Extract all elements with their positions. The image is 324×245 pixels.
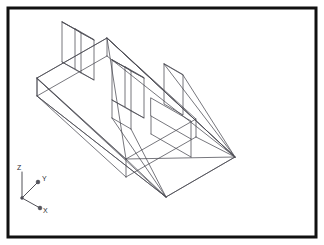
- tie-line-b: [126, 159, 166, 197]
- y-axis-arrowhead-icon: [36, 180, 40, 184]
- x-axis-line: [22, 198, 40, 208]
- y-axis-label: Y: [42, 175, 47, 182]
- slab-right-top: [151, 98, 191, 139]
- x-axis-arrowhead-icon: [38, 206, 42, 210]
- x-axis-label: X: [43, 207, 48, 214]
- slab-right-front-bottom: [151, 134, 191, 157]
- wireframe-geometry-group: [37, 22, 235, 197]
- rib-front-lower-edge: [37, 96, 126, 177]
- wedge-right-edge-b: [166, 157, 235, 197]
- wedge-left-end-vertical: [37, 56, 107, 96]
- tie-line-g: [196, 137, 235, 157]
- wedge-upper-slope-right: [107, 56, 235, 157]
- plate-mid-connector-low: [131, 111, 144, 118]
- plate-mid-b-quad: [125, 67, 144, 118]
- rib-bottom-edge: [126, 137, 196, 177]
- wedge-upper-slope-left: [37, 96, 166, 197]
- tie-line-d: [112, 118, 166, 197]
- plate-left-connector-bot: [62, 62, 75, 69]
- tie-line-c: [126, 157, 235, 159]
- cad-drawing-viewport[interactable]: ZYX: [0, 0, 324, 245]
- ucs-axis-tripod[interactable]: ZYX: [17, 164, 48, 214]
- y-axis-line: [22, 182, 38, 198]
- rib-inner-edge-top: [107, 38, 126, 159]
- plate-mid-connector-bot: [112, 100, 125, 107]
- ucs-origin-marker: [21, 197, 24, 200]
- plate-mid-cross-b: [125, 67, 131, 71]
- drawing-canvas: ZYX: [0, 0, 324, 245]
- plate-mid-drop-base: [112, 118, 131, 129]
- plate-left-outer-quad: [62, 22, 81, 73]
- plate-right-edge-back: [164, 64, 183, 75]
- plate-left-connector-low: [81, 73, 94, 80]
- z-axis-label: Z: [17, 164, 22, 171]
- plate-left-diag-b: [75, 29, 81, 33]
